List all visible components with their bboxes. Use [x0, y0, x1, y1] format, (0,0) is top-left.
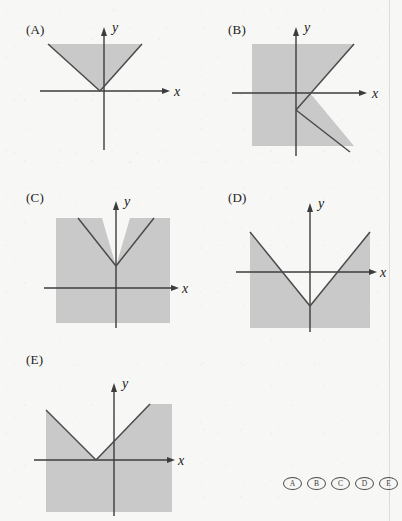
option-panel-b[interactable]: (B) y x [200, 0, 402, 170]
option-panel-a[interactable]: (A) y x [0, 0, 200, 170]
x-axis-label-b: x [371, 86, 379, 101]
x-axis-label-a: x [173, 84, 181, 99]
graph-c: y x [30, 188, 198, 336]
answer-bubble-c[interactable]: C [331, 477, 350, 490]
y-axis-label-a: y [110, 20, 119, 35]
option-panel-c[interactable]: (C) y x [0, 168, 200, 340]
panel-label-e: (E) [26, 352, 43, 368]
x-axis-label-e: x [177, 453, 185, 468]
y-axis-label-e: y [120, 376, 129, 391]
graph-d: y x [224, 188, 394, 338]
option-panel-e[interactable]: (E) y x [0, 340, 210, 521]
graph-a: y x [28, 18, 193, 163]
answer-bubble-b[interactable]: B [307, 477, 326, 490]
x-axis-a [40, 88, 170, 94]
graph-b: y x [224, 18, 394, 166]
shaded-region-e [46, 404, 172, 512]
x-axis-label-d: x [379, 265, 387, 280]
shaded-region-a [48, 44, 142, 91]
answer-bubble-a[interactable]: A [283, 477, 302, 490]
answer-bubble-d[interactable]: D [355, 477, 374, 490]
option-panel-d[interactable]: (D) y x [200, 168, 402, 340]
y-axis-label-c: y [122, 194, 131, 209]
x-axis-label-c: x [181, 281, 189, 296]
answer-bubble-e[interactable]: E [379, 477, 398, 490]
shaded-region-b [252, 44, 354, 146]
graph-e: y x [22, 370, 197, 520]
shaded-region-c [56, 218, 170, 323]
answer-bubble-row[interactable]: A B C D E [283, 477, 398, 490]
y-axis-label-d: y [316, 196, 325, 211]
y-axis-label-b: y [302, 20, 311, 35]
